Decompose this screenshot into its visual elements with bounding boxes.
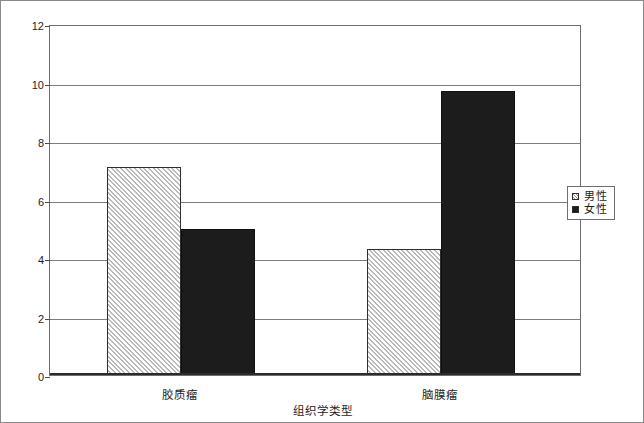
x-axis-title: 组织学类型 [293,402,353,418]
y-axis-tick-label: 0 [22,372,44,383]
y-axis-tick [45,143,50,144]
bar-胶质瘤-男性 [107,167,181,375]
x-axis-category-label: 脑膜瘤 [422,386,458,402]
bar-脑膜瘤-女性 [441,91,515,375]
legend-item-female: 女性 [572,203,608,216]
y-axis-tick [45,26,50,27]
bar-胶质瘤-女性 [181,229,255,375]
y-axis-tick-label: 8 [22,138,44,149]
y-axis-tick [45,85,50,86]
y-axis-tick-label: 2 [22,313,44,324]
legend-item-male: 男性 [572,190,608,203]
y-axis-tick-label: 10 [22,79,44,90]
chart-figure: 每 100 000 人口病例数 024681012 胶质瘤脑膜瘤 组织学类型 男… [0,0,644,423]
x-axis-category-label: 胶质瘤 [162,386,198,402]
y-axis-tick-label: 6 [22,196,44,207]
bar-脑膜瘤-男性 [367,249,441,375]
legend-item-label: 男性 [584,191,608,202]
x-axis-line [50,373,580,375]
y-axis-tick [45,319,50,320]
y-axis-tick [45,377,50,378]
solid-square-icon [572,206,579,213]
plot-area: 024681012 [49,25,581,376]
y-axis-tick [45,260,50,261]
hatched-square-icon [572,193,579,200]
legend-item-label: 女性 [584,204,608,215]
gridline [50,85,580,86]
y-axis-tick-label: 12 [22,21,44,32]
chart-legend: 男性 女性 [567,186,615,220]
y-axis-tick-label: 4 [22,255,44,266]
y-axis-tick [45,202,50,203]
